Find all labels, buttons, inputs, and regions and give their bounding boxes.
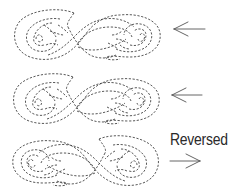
stitch-pattern-2 <box>14 74 160 124</box>
arrow-right-icon <box>170 154 200 168</box>
stitch-pattern-diagram <box>0 0 235 196</box>
stitch-pattern-3-reversed <box>13 136 159 186</box>
reversed-label: Reversed <box>170 131 228 148</box>
stitch-pattern-1 <box>15 10 161 60</box>
arrow-left-icon <box>174 22 205 36</box>
arrow-left-icon <box>172 88 202 102</box>
